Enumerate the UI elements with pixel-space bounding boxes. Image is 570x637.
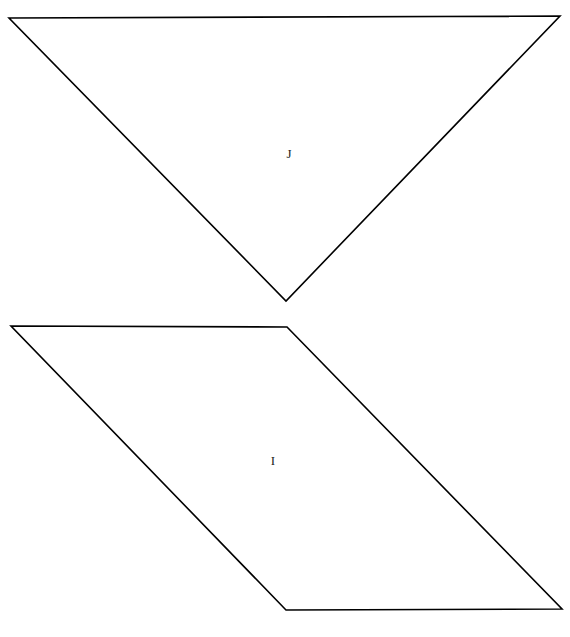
shape-j-label: J bbox=[286, 146, 291, 161]
figure-canvas: Shapes I and J (rotation) J I bbox=[0, 0, 570, 637]
geometry-figure: J I bbox=[0, 0, 570, 637]
shape-i-label: I bbox=[271, 453, 275, 468]
